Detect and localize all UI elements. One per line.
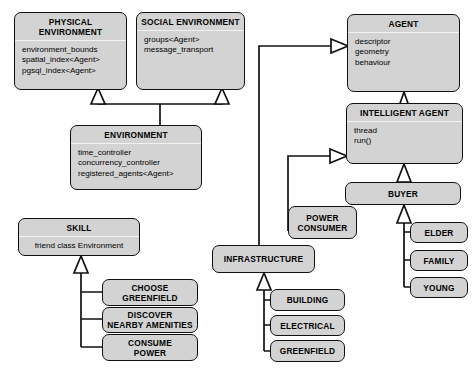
class-title: ELECTRICAL	[276, 321, 339, 331]
class-agent[interactable]: AGENT descriptor geometry behaviour	[347, 14, 460, 92]
class-building[interactable]: BUILDING	[270, 289, 345, 311]
class-title: YOUNG	[419, 283, 458, 293]
class-title: INTELLIGENT AGENT	[347, 104, 462, 122]
class-title: CONSUME POWER	[124, 338, 176, 358]
arrowhead-intelligent-from-buyer	[397, 164, 411, 182]
arrowhead-intelligent-from-power	[330, 149, 347, 163]
class-title: DISCOVER NEARBY AMENITIES	[103, 310, 196, 330]
class-young[interactable]: YOUNG	[410, 277, 468, 298]
arrowhead-agent-from-infrastructure	[331, 39, 348, 53]
class-greenfield[interactable]: GREENFIELD	[270, 340, 345, 362]
class-attributes: environment_bounds spatial_index<Agent> …	[15, 41, 126, 79]
class-title: INFRASTRUCTURE	[220, 254, 307, 264]
class-environment[interactable]: ENVIRONMENT time_controller concurrency_…	[70, 125, 202, 190]
class-title: ENVIRONMENT	[71, 126, 201, 144]
class-attributes: descriptor geometry behaviour	[348, 33, 459, 71]
class-consume-power[interactable]: CONSUME POWER	[102, 334, 198, 361]
class-family[interactable]: FAMILY	[410, 250, 468, 271]
class-title: PHYSICAL ENVIRONMENT	[15, 13, 126, 41]
class-skill[interactable]: SKILL friend class Environment	[18, 218, 140, 256]
class-choose-greenfield[interactable]: CHOOSE GREENFIELD	[102, 279, 198, 306]
class-title: SOCIAL ENVIRONMENT	[137, 13, 244, 31]
class-title: AGENT	[348, 15, 459, 33]
arrowhead-social-environment	[215, 88, 229, 104]
class-infrastructure[interactable]: INFRASTRUCTURE	[212, 245, 315, 273]
edge-skill-children	[81, 268, 102, 347]
class-title: GREENFIELD	[276, 346, 339, 356]
class-title: BUILDING	[283, 295, 333, 305]
class-buyer[interactable]: BUYER	[345, 182, 461, 205]
edge-environment-to-parents	[98, 97, 222, 125]
class-title: BUYER	[384, 189, 422, 199]
class-attributes: friend class Environment	[19, 237, 139, 254]
class-title: FAMILY	[420, 256, 459, 266]
class-elder[interactable]: ELDER	[410, 222, 468, 243]
class-social-environment[interactable]: SOCIAL ENVIRONMENT groups<Agent> message…	[136, 12, 245, 90]
edge-infrastructure-children	[264, 281, 270, 351]
class-title: SKILL	[19, 219, 139, 237]
class-title: CHOOSE GREENFIELD	[118, 283, 181, 303]
arrowhead-buyer-from-children	[397, 205, 411, 223]
class-physical-environment[interactable]: PHYSICAL ENVIRONMENT environment_bounds …	[14, 12, 127, 90]
uml-class-diagram: PHYSICAL ENVIRONMENT environment_bounds …	[0, 0, 474, 381]
class-attributes: groups<Agent> message_transport	[137, 31, 244, 59]
class-power-consumer[interactable]: POWER CONSUMER	[288, 206, 357, 239]
class-attributes: time_controller concurrency_controller r…	[71, 144, 201, 182]
class-intelligent-agent[interactable]: INTELLIGENT AGENT thread run()	[346, 103, 463, 164]
arrowhead-skill-from-children	[74, 256, 88, 273]
arrowhead-physical-environment	[91, 88, 105, 104]
arrowhead-infrastructure-from-children	[257, 273, 271, 290]
class-discover-nearby-amenities[interactable]: DISCOVER NEARBY AMENITIES	[102, 307, 198, 333]
class-title: POWER CONSUMER	[294, 213, 352, 233]
class-electrical[interactable]: ELECTRICAL	[270, 315, 345, 336]
class-attributes: thread run()	[347, 122, 462, 150]
class-title: ELDER	[420, 228, 457, 238]
edge-buyer-children	[404, 213, 410, 287]
